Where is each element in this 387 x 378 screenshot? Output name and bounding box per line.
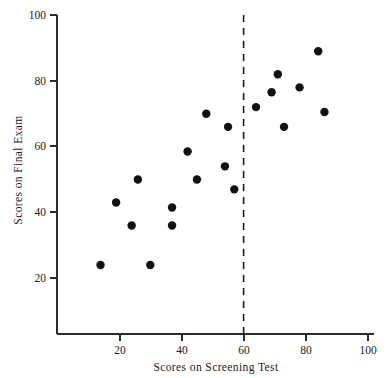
- y-tick-labels: 100 80 60 40 20: [29, 9, 47, 284]
- y-axis-title: Scores on Final Exam: [12, 115, 24, 224]
- y-tick-label-40: 40: [35, 206, 47, 218]
- x-tick-labels: 20 40 60 80 100: [114, 344, 377, 356]
- x-tick-marks: [120, 334, 368, 341]
- x-tick-label-20: 20: [114, 344, 126, 356]
- data-point: [193, 175, 201, 183]
- plot-canvas: 100 80 60 40 20 20 40 60 80 100 Scores o…: [0, 0, 387, 378]
- scatter-plot-figure: 100 80 60 40 20 20 40 60 80 100 Scores o…: [0, 0, 387, 378]
- data-point: [314, 47, 322, 55]
- data-point: [96, 261, 104, 269]
- data-point: [252, 103, 260, 111]
- axes-group: [57, 15, 374, 334]
- x-axis-title: Scores on Screening Test: [153, 361, 279, 374]
- data-point: [146, 261, 154, 269]
- x-tick-label-60: 60: [238, 344, 250, 356]
- y-tick-label-80: 80: [35, 75, 47, 87]
- x-tick-label-100: 100: [359, 344, 377, 356]
- data-point: [320, 108, 328, 116]
- x-tick-label-40: 40: [176, 344, 188, 356]
- y-tick-marks: [50, 15, 57, 278]
- data-point: [168, 221, 176, 229]
- data-point: [221, 162, 229, 170]
- data-point: [280, 123, 288, 131]
- data-point: [112, 198, 120, 206]
- data-point: [224, 123, 232, 131]
- data-point: [183, 147, 191, 155]
- data-point: [267, 88, 275, 96]
- data-point: [295, 83, 303, 91]
- y-tick-label-20: 20: [35, 272, 47, 284]
- y-tick-label-100: 100: [29, 9, 47, 21]
- data-point: [230, 185, 238, 193]
- y-tick-label-60: 60: [35, 140, 47, 152]
- data-point: [274, 70, 282, 78]
- data-point: [168, 203, 176, 211]
- data-point: [127, 221, 135, 229]
- data-point: [202, 110, 210, 118]
- data-point: [134, 175, 142, 183]
- data-points-layer: [96, 47, 328, 269]
- x-tick-label-80: 80: [300, 344, 312, 356]
